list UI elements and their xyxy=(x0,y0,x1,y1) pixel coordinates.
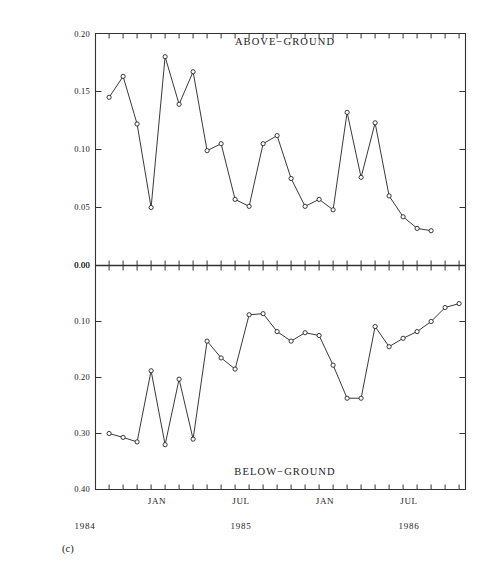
plot-canvas xyxy=(0,0,488,580)
figure-panel-c: RELATIVE RATE OF DECOMPOSITION (g g−1 mo… xyxy=(0,0,488,580)
axis-ticks xyxy=(109,34,459,490)
data-series-above-ground xyxy=(107,55,433,233)
data-series-below-ground xyxy=(107,301,461,446)
